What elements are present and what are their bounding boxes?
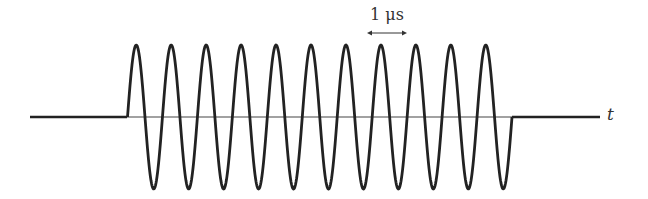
period-arrow: [367, 31, 407, 36]
period-label: 1 μs: [367, 5, 407, 24]
waveform-plot: [0, 0, 648, 199]
arrow-right-icon: [402, 31, 407, 36]
waveform-diagram: 1 μs t: [0, 0, 648, 199]
time-axis-label: t: [607, 104, 614, 124]
arrow-left-icon: [367, 31, 372, 36]
